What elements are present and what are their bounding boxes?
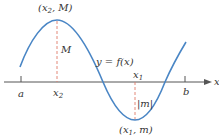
- x1-label: x1: [133, 69, 143, 82]
- max-height-label: M: [60, 44, 72, 55]
- curve-f: [20, 20, 186, 120]
- min-point-label: (x1, m): [119, 124, 153, 137]
- min-height-label: |m|: [137, 98, 153, 110]
- x2-label: x2: [53, 87, 64, 100]
- max-point-label: (x2, M): [38, 2, 73, 15]
- curve-label: y = f(x): [95, 56, 134, 67]
- x-axis-label: x: [214, 76, 219, 87]
- tick-b-label: b: [183, 86, 189, 97]
- x-axis-arrow-icon: [204, 79, 212, 85]
- extreme-value-diagram: x a b (x2, M) M x2 y = f(x) x1 |m| (x1, …: [0, 0, 219, 137]
- tick-a-label: a: [18, 88, 24, 99]
